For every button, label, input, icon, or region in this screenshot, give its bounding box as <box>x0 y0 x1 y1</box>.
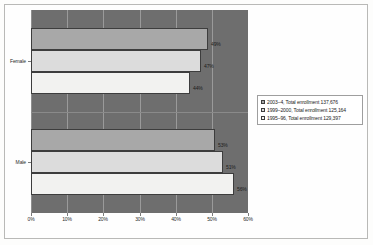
legend-item[interactable]: 1995–96, Total enrollment 129,397 <box>260 114 360 122</box>
y-tick-mark <box>28 61 31 62</box>
bar-value-label: 53% <box>218 143 228 148</box>
legend-swatch-icon <box>261 108 265 112</box>
y-tick-label: Male <box>8 159 26 165</box>
plot-area: 49%47%44%53%51%56% <box>31 10 248 213</box>
legend-item[interactable]: 1999–2000, Total enrollment 125,164 <box>260 106 360 114</box>
bar-value-label: 44% <box>193 86 203 91</box>
bar-value-label: 56% <box>237 187 247 192</box>
bar-value-label: 49% <box>211 42 221 47</box>
x-tick-label: 20% <box>98 216 108 222</box>
x-tick-label: 60% <box>243 216 253 222</box>
bar <box>31 151 223 173</box>
y-tick-mark <box>28 162 31 163</box>
legend-item-label: 2003–4, Total enrollment 137,676 <box>267 100 338 105</box>
legend-swatch-icon <box>261 116 265 120</box>
bar-value-label: 51% <box>226 165 236 170</box>
x-tick-label: 10% <box>62 216 72 222</box>
x-tick-label: 0% <box>27 216 34 222</box>
category-separator <box>31 112 248 113</box>
bar <box>31 50 201 72</box>
bar <box>31 173 234 195</box>
y-tick-label: Female <box>8 58 26 64</box>
bar <box>31 28 208 50</box>
x-tick-label: 30% <box>135 216 145 222</box>
bar <box>31 129 215 151</box>
legend-item-label: 1995–96, Total enrollment 129,397 <box>267 116 341 121</box>
bar-value-label: 47% <box>204 64 214 69</box>
chart-figure: 49%47%44%53%51%56% 0%10%20%30%40%50%60% … <box>0 0 373 245</box>
legend-item[interactable]: 2003–4, Total enrollment 137,676 <box>260 98 360 106</box>
x-tick-label: 50% <box>207 216 217 222</box>
chart-legend: 2003–4, Total enrollment 137,676 1999–20… <box>257 95 363 125</box>
legend-item-label: 1999–2000, Total enrollment 125,164 <box>267 108 346 113</box>
x-tick-label: 40% <box>171 216 181 222</box>
legend-swatch-icon <box>261 100 265 104</box>
bar <box>31 72 190 94</box>
